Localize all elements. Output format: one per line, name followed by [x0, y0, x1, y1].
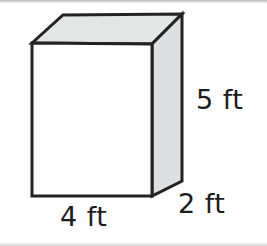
width-dimension-label: 4 ft — [60, 203, 107, 230]
prism-right-face — [152, 14, 182, 196]
prism-front-face — [32, 43, 152, 196]
figure-canvas: 5 ft 2 ft 4 ft — [0, 0, 267, 246]
depth-dimension-label: 2 ft — [178, 190, 225, 217]
height-dimension-label: 5 ft — [196, 86, 243, 113]
rectangular-prism-illustration — [0, 0, 267, 246]
